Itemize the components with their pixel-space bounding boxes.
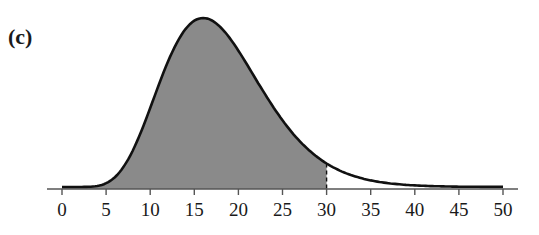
panel-label: (c) bbox=[8, 24, 32, 49]
x-tick-label: 30 bbox=[317, 199, 336, 220]
x-tick-label: 25 bbox=[273, 199, 292, 220]
density-chart: (c) 05101520253035404550 bbox=[0, 0, 539, 235]
x-tick-label: 0 bbox=[57, 199, 67, 220]
x-tick-label: 40 bbox=[405, 199, 424, 220]
x-axis-ticks: 05101520253035404550 bbox=[57, 189, 512, 220]
x-tick-label: 45 bbox=[449, 199, 468, 220]
x-tick-label: 20 bbox=[229, 199, 248, 220]
x-tick-label: 15 bbox=[185, 199, 204, 220]
x-tick-label: 35 bbox=[361, 199, 380, 220]
x-tick-label: 10 bbox=[141, 199, 160, 220]
x-tick-label: 50 bbox=[494, 199, 513, 220]
x-tick-label: 5 bbox=[101, 199, 111, 220]
shaded-area bbox=[62, 18, 327, 189]
